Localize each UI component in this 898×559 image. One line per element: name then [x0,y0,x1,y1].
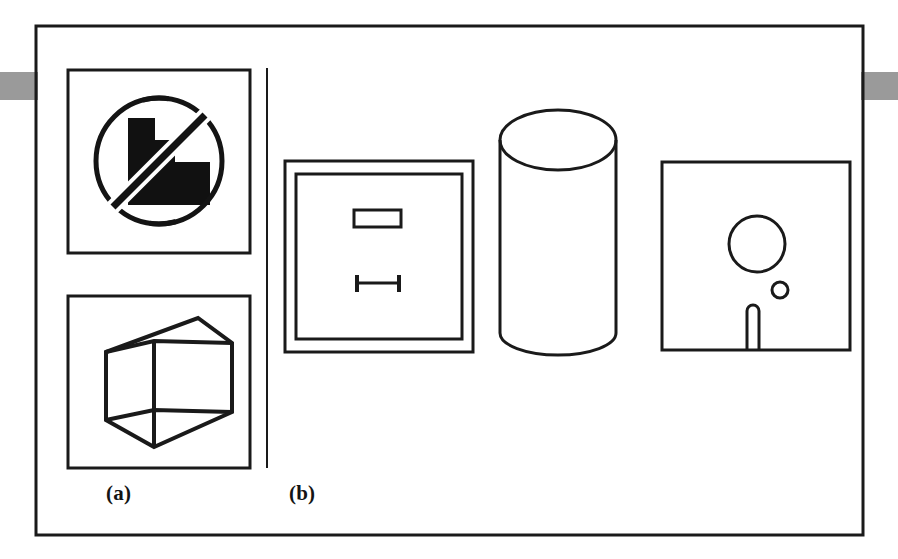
panel-caption-a: (a) [106,483,131,504]
right-edge-tab [861,72,898,100]
panel-caption-b: (b) [289,483,315,504]
left-edge-tab [0,72,38,100]
figure-canvas [0,0,898,559]
figure-root: (a) (b) [0,0,898,559]
page-background [0,0,898,559]
